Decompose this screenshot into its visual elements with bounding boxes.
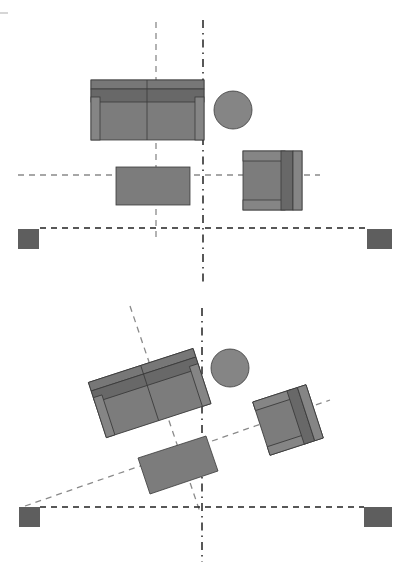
bottom-armchair <box>253 385 324 456</box>
bottom-speaker-left <box>19 507 40 527</box>
sofa-arm-left <box>91 97 100 140</box>
sofa-back-cushion <box>91 89 204 102</box>
top-layout-panel <box>18 20 392 282</box>
furniture-layout-diagram <box>0 0 410 573</box>
top-speaker-right <box>367 229 392 249</box>
bottom-coffee-table <box>138 436 218 494</box>
armchair-back-cushion <box>281 151 293 210</box>
armchair-arm-bottom <box>243 200 285 210</box>
bottom-layout-panel <box>19 306 392 562</box>
armchair-arm-top <box>243 151 285 161</box>
bottom-sofa <box>88 348 211 437</box>
sofa-arm-right <box>195 97 204 140</box>
top-speaker-left <box>18 229 39 249</box>
bottom-round-side-table <box>211 349 249 387</box>
top-sofa <box>91 80 204 140</box>
sofa-back <box>91 80 204 89</box>
armchair-back <box>293 151 302 210</box>
bottom-speaker-right <box>364 507 392 527</box>
top-round-side-table <box>214 91 252 129</box>
top-armchair <box>243 151 302 210</box>
top-coffee-table <box>116 167 190 205</box>
